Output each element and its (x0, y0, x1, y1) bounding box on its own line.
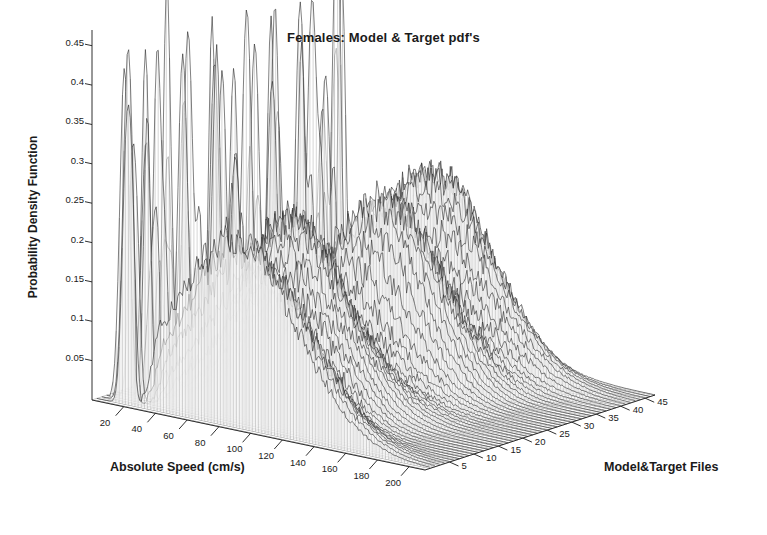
x-tick-80: 80 (195, 437, 206, 448)
z-tick-30: 30 (584, 420, 595, 431)
z-tick-40: 40 (633, 404, 644, 415)
x-tick-100: 100 (227, 443, 243, 454)
waterfall-traces (97, 0, 655, 468)
x-tick-20: 20 (100, 417, 111, 428)
x-tick-200: 200 (385, 477, 401, 488)
x-axis-title: Absolute Speed (cm/s) (110, 460, 245, 474)
x-tick-180: 180 (353, 470, 369, 481)
y-tick-0.4: 0.4 (52, 76, 84, 87)
y-tick-0.35: 0.35 (52, 115, 84, 126)
y-tick-0.05: 0.05 (52, 352, 84, 363)
page-title: Females: Model & Target pdf's (0, 30, 767, 45)
y-tick-0.1: 0.1 (52, 312, 84, 323)
x-tick-120: 120 (258, 450, 274, 461)
y-axis-title: Probability Density Function (26, 102, 40, 332)
z-tick-20: 20 (535, 436, 546, 447)
y-tick-0.15: 0.15 (52, 273, 84, 284)
y-tick-0.2: 0.2 (52, 234, 84, 245)
x-tick-60: 60 (163, 430, 174, 441)
chart-page: Females: Model & Target pdf's Probabilit… (0, 0, 767, 535)
x-tick-160: 160 (322, 463, 338, 474)
x-tick-40: 40 (131, 423, 142, 434)
y-tick-0.25: 0.25 (52, 194, 84, 205)
z-tick-35: 35 (608, 412, 619, 423)
z-tick-25: 25 (559, 428, 570, 439)
z-tick-45: 45 (657, 396, 668, 407)
y-tick-0.3: 0.3 (52, 155, 84, 166)
waterfall-plot-canvas (0, 0, 767, 535)
z-axis-title: Model&Target Files (604, 460, 718, 474)
z-tick-15: 15 (510, 444, 521, 455)
x-tick-140: 140 (290, 457, 306, 468)
z-tick-5: 5 (461, 460, 466, 471)
y-tick-0.45: 0.45 (52, 37, 84, 48)
z-tick-10: 10 (486, 452, 497, 463)
